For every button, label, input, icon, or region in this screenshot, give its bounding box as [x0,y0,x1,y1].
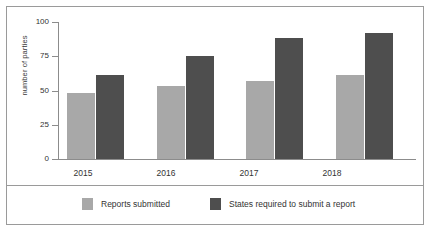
y-axis-title: number of parties [20,16,29,116]
x-tick-label-2015: 2015 [48,168,118,178]
y-tick-label-0: 0 [25,155,49,163]
legend-swatch-light [82,198,93,210]
bar-2016-series2 [186,56,214,159]
bar-2015-series2 [96,75,124,159]
bar-2018-series1 [336,75,364,159]
legend-swatch-dark [210,198,221,210]
x-tick-label-2016: 2016 [131,168,201,178]
legend-entry-states-required: States required to submit a report [210,197,355,211]
chart-figure: number of parties 100 75 50 25 0 2015 20… [6,6,424,225]
x-axis-spine [58,159,416,160]
y-tick-label-50: 50 [25,87,49,95]
x-tick-label-2018: 2018 [297,168,367,178]
y-tick-label-25: 25 [25,121,49,129]
plot-area: number of parties 100 75 50 25 0 2015 20… [7,7,423,185]
y-tick-label-75: 75 [25,52,49,60]
legend-entry-reports-submitted: Reports submitted [82,197,170,211]
legend-label-reports-submitted: Reports submitted [101,199,170,209]
legend-label-states-required: States required to submit a report [229,199,355,209]
y-tick-label-100: 100 [25,18,49,26]
bar-2016-series1 [157,86,185,159]
bar-2017-series1 [246,81,274,159]
bar-2015-series1 [67,93,95,159]
bar-2018-series2 [365,33,393,159]
bars-layer [58,22,416,159]
y-tick-mark-0 [52,159,58,160]
bar-2017-series2 [275,38,303,159]
chart-legend: Reports submitted States required to sub… [7,186,423,224]
x-tick-label-2017: 2017 [214,168,284,178]
